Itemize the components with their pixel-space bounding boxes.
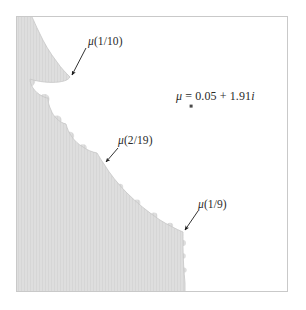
mu-argument: (1/10) (94, 35, 123, 47)
mu-argument: (1/9) (204, 198, 227, 210)
mu-argument: (2/19) (124, 134, 153, 146)
parameter-point-marker (190, 105, 193, 108)
plus-sign: + (220, 89, 227, 103)
label-mu-2-19: μ(2/19) (118, 135, 153, 147)
bulb-decoration-small (91, 153, 97, 159)
imaginary-part: 1.91 (230, 89, 251, 103)
fractal-plot-canvas (0, 0, 306, 310)
mu-symbol: μ (176, 89, 182, 103)
bulb-decoration-small (66, 132, 74, 140)
real-part: 0.05 (195, 89, 216, 103)
label-mu-1-10: μ(1/10) (88, 36, 123, 48)
bulb-decoration-small (52, 115, 61, 124)
fractal-figure: μ(1/10) μ(2/19) μ(1/9) μ = 0.05 + 1.91i (0, 0, 306, 310)
label-parameter-value: μ = 0.05 + 1.91i (176, 90, 255, 102)
bulb-decoration-small (117, 184, 123, 190)
equals-sign: = (185, 89, 192, 103)
label-mu-1-9: μ(1/9) (198, 199, 227, 211)
imaginary-unit-icon: i (251, 89, 254, 103)
